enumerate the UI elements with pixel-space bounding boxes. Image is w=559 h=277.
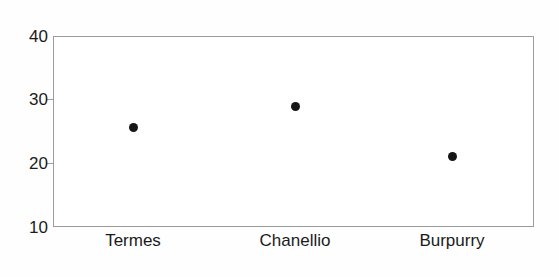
x-tick-label-termes: Termes (105, 232, 161, 249)
data-point-burpurry (448, 152, 457, 161)
y-tick-label-40: 40 (29, 28, 48, 45)
chart-figure: 40 30 20 10 Termes Chanellio Burpurry (0, 0, 559, 277)
data-point-chanellio (291, 102, 300, 111)
x-tick-label-burpurry: Burpurry (419, 232, 484, 249)
plot-area (53, 36, 534, 227)
y-axis: 40 30 20 10 (0, 0, 48, 277)
data-point-termes (129, 123, 138, 132)
y-tick-label-20: 20 (29, 155, 48, 172)
y-tick-label-30: 30 (29, 91, 48, 108)
x-tick-label-chanellio: Chanellio (260, 232, 331, 249)
y-tick-label-10: 10 (29, 219, 48, 236)
